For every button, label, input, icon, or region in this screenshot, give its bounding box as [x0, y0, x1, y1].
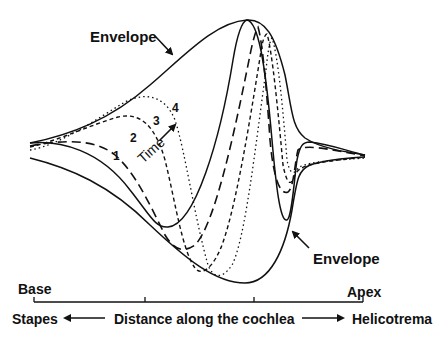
wave-2-label: 2	[130, 131, 137, 145]
wave-2-curve	[30, 27, 365, 249]
base-label: Base	[18, 281, 52, 297]
distance-axis-label: Distance along the cochlea	[114, 311, 295, 327]
apex-label: Apex	[347, 284, 381, 300]
wave-3-label: 3	[153, 114, 160, 128]
wave-1-label: 1	[113, 149, 120, 163]
wave-4-curve	[30, 38, 365, 276]
envelope-top-label: Envelope	[90, 28, 157, 45]
envelope-bottom-arrow-icon	[293, 232, 309, 248]
stapes-label: Stapes	[12, 311, 58, 327]
wave-1-curve	[30, 20, 365, 227]
traveling-wave-diagram: 1 2 3 4 Time Envelope Envelope Base Apex…	[0, 0, 447, 340]
envelope-upper-curve	[30, 20, 365, 155]
wave-3-curve	[30, 34, 365, 271]
helicotrema-label: Helicotrema	[352, 311, 432, 327]
time-label: Time	[134, 134, 168, 167]
envelope-top-arrow-icon	[155, 36, 172, 54]
time-arrow-icon	[160, 125, 175, 140]
envelope-bottom-label: Envelope	[313, 250, 380, 267]
wave-4-label: 4	[172, 101, 179, 115]
